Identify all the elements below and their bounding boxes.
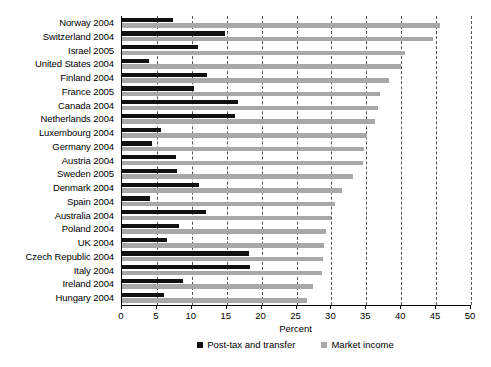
bar-post-tax-and-transfer bbox=[122, 128, 161, 132]
bar-post-tax-and-transfer bbox=[122, 45, 198, 49]
category-label: Italy 2004 bbox=[0, 264, 117, 278]
x-tick-mark bbox=[261, 305, 262, 309]
bar-post-tax-and-transfer bbox=[122, 251, 249, 255]
legend-item-market-income: Market income bbox=[321, 339, 393, 350]
bar-market-income bbox=[122, 78, 389, 82]
bar-post-tax-and-transfer bbox=[122, 224, 179, 228]
bar-market-income bbox=[122, 23, 440, 27]
category-label: France 2005 bbox=[0, 85, 117, 99]
bar-market-income bbox=[122, 243, 324, 247]
bar-row bbox=[122, 181, 470, 195]
bar-market-income bbox=[122, 284, 313, 288]
bar-row bbox=[122, 99, 470, 113]
bar-market-income bbox=[122, 92, 380, 96]
bar-row bbox=[122, 236, 470, 250]
x-axis-title: Percent bbox=[121, 323, 470, 334]
bar-row bbox=[122, 30, 470, 44]
x-tick-mark bbox=[296, 305, 297, 309]
x-tick-label: 30 bbox=[325, 310, 336, 321]
chart-legend: Post-tax and transfer Market income bbox=[121, 339, 470, 350]
category-label: Norway 2004 bbox=[0, 16, 117, 30]
bar-row bbox=[122, 44, 470, 58]
bar-row bbox=[122, 71, 470, 85]
x-tick-label: 45 bbox=[430, 310, 441, 321]
bar-post-tax-and-transfer bbox=[122, 210, 206, 214]
x-tick-label: 0 bbox=[118, 310, 123, 321]
category-label: Denmark 2004 bbox=[0, 181, 117, 195]
bar-market-income bbox=[122, 161, 363, 165]
bar-row bbox=[122, 154, 470, 168]
bar-post-tax-and-transfer bbox=[122, 73, 207, 77]
bar-post-tax-and-transfer bbox=[122, 141, 152, 145]
gridline-50 bbox=[471, 16, 472, 305]
bar-row bbox=[122, 57, 470, 71]
x-tick-mark bbox=[470, 305, 471, 309]
bar-market-income bbox=[122, 106, 378, 110]
category-label: Sweden 2005 bbox=[0, 167, 117, 181]
bar-row bbox=[122, 250, 470, 264]
x-tick-mark bbox=[226, 305, 227, 309]
bar-row bbox=[122, 291, 470, 305]
bar-row bbox=[122, 209, 470, 223]
bar-post-tax-and-transfer bbox=[122, 100, 238, 104]
bar-chart-figure: Norway 2004Switzerland 2004Israel 2005Un… bbox=[0, 0, 491, 367]
bar-market-income bbox=[122, 147, 364, 151]
bar-post-tax-and-transfer bbox=[122, 265, 250, 269]
bar-post-tax-and-transfer bbox=[122, 86, 194, 90]
x-tick-mark bbox=[400, 305, 401, 309]
category-label: Finland 2004 bbox=[0, 71, 117, 85]
bar-market-income bbox=[122, 298, 307, 302]
x-tick-label: 10 bbox=[186, 310, 197, 321]
bar-market-income bbox=[122, 174, 353, 178]
x-tick-label: 40 bbox=[395, 310, 406, 321]
bar-row bbox=[122, 16, 470, 30]
x-tick-label: 25 bbox=[290, 310, 301, 321]
x-tick-mark bbox=[435, 305, 436, 309]
bar-market-income bbox=[122, 257, 323, 261]
plot-area bbox=[121, 16, 470, 305]
bar-row bbox=[122, 222, 470, 236]
category-label: Germany 2004 bbox=[0, 140, 117, 154]
bar-row bbox=[122, 140, 470, 154]
x-tick-mark bbox=[330, 305, 331, 309]
bar-row bbox=[122, 112, 470, 126]
bar-market-income bbox=[122, 64, 401, 68]
category-axis-labels: Norway 2004Switzerland 2004Israel 2005Un… bbox=[0, 16, 117, 305]
bar-market-income bbox=[122, 271, 322, 275]
bar-row bbox=[122, 85, 470, 99]
category-label: Australia 2004 bbox=[0, 209, 117, 223]
bar-post-tax-and-transfer bbox=[122, 114, 235, 118]
bar-row bbox=[122, 126, 470, 140]
category-label: Luxembourg 2004 bbox=[0, 126, 117, 140]
x-tick-mark bbox=[156, 305, 157, 309]
category-label: Austria 2004 bbox=[0, 154, 117, 168]
bar-market-income bbox=[122, 202, 335, 206]
category-label: Switzerland 2004 bbox=[0, 30, 117, 44]
bar-post-tax-and-transfer bbox=[122, 279, 183, 283]
bar-row bbox=[122, 277, 470, 291]
x-tick-label: 5 bbox=[153, 310, 158, 321]
legend-item-post-tax-and-transfer: Post-tax and transfer bbox=[197, 339, 295, 350]
bar-post-tax-and-transfer bbox=[122, 155, 176, 159]
bar-post-tax-and-transfer bbox=[122, 238, 167, 242]
x-tick-label: 15 bbox=[220, 310, 231, 321]
category-label: Spain 2004 bbox=[0, 195, 117, 209]
bar-market-income bbox=[122, 216, 331, 220]
category-label: UK 2004 bbox=[0, 236, 117, 250]
x-tick-mark bbox=[365, 305, 366, 309]
bar-post-tax-and-transfer bbox=[122, 59, 149, 63]
bar-market-income bbox=[122, 119, 375, 123]
bar-market-income bbox=[122, 133, 367, 137]
legend-swatch-dark-icon bbox=[197, 342, 203, 348]
category-label: Netherlands 2004 bbox=[0, 112, 117, 126]
x-tick-mark bbox=[121, 305, 122, 309]
bar-market-income bbox=[122, 37, 433, 41]
legend-label-post-tax-and-transfer: Post-tax and transfer bbox=[207, 339, 295, 350]
legend-swatch-light-icon bbox=[321, 342, 327, 348]
category-label: Czech Republic 2004 bbox=[0, 250, 117, 264]
category-label: Poland 2004 bbox=[0, 222, 117, 236]
bar-row bbox=[122, 195, 470, 209]
x-tick-label: 50 bbox=[465, 310, 476, 321]
legend-label-market-income: Market income bbox=[331, 339, 393, 350]
bar-post-tax-and-transfer bbox=[122, 18, 173, 22]
